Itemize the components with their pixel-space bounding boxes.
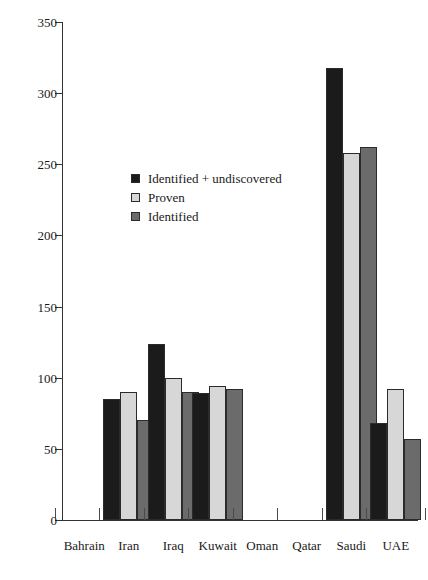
bar [103,399,120,520]
x-axis-tick-mark [425,508,426,520]
x-axis-tick-mark [188,508,189,520]
bar [209,386,226,520]
x-axis-tick-mark [277,508,278,520]
plot-area [62,22,418,520]
bar [343,153,360,520]
bar-group [237,22,288,520]
bar-group [192,22,243,520]
legend-item: Identified + undiscovered [131,170,282,187]
legend-swatch-icon [131,212,140,221]
bar-chart: 050100150200250300350 BahrainIranIraqKuw… [0,0,428,580]
bar [404,439,421,520]
bar [120,392,137,520]
x-axis-label: Iran [118,539,139,552]
bar [326,68,343,520]
bar [148,344,165,520]
x-axis-label: Kuwait [199,539,237,552]
y-axis-tick-label: 150 [38,300,58,313]
y-axis-tick-label: 100 [38,371,58,384]
x-axis-label: Bahrain [64,539,105,552]
y-axis-tick-label: 0 [51,514,58,527]
bar-group [281,22,332,520]
x-axis-tick-mark [366,508,367,520]
y-axis-tick-label: 300 [38,87,58,100]
bar [192,393,209,520]
x-axis-tick-mark [233,508,234,520]
bar-group [148,22,199,520]
chart-legend: Identified + undiscoveredProvenIdentifie… [131,170,282,227]
bar-group [103,22,154,520]
legend-item-label: Proven [148,191,185,204]
x-axis-tick-mark [99,508,100,520]
x-axis-label: Qatar [292,539,321,552]
bar [370,423,387,520]
bar-group [59,22,110,520]
x-axis-label: Saudi [336,539,366,552]
x-axis-label: Oman [246,539,278,552]
bar-group [370,22,421,520]
bar [387,389,404,520]
x-axis-tick-mark [144,508,145,520]
x-axis-tick-mark [55,508,56,520]
x-axis-label: UAE [382,539,409,552]
x-axis-line [62,520,418,521]
legend-item-label: Identified + undiscovered [148,172,282,185]
y-axis-tick-label: 200 [38,229,58,242]
legend-swatch-icon [131,193,140,202]
legend-item-label: Identified [148,210,199,223]
x-axis-label: Iraq [163,539,184,552]
bar-group [326,22,377,520]
y-axis-tick-label: 50 [44,442,57,455]
legend-item: Identified [131,208,282,225]
legend-item: Proven [131,189,282,206]
x-axis-tick-mark [322,508,323,520]
y-axis-tick-label: 350 [38,16,58,29]
bar [165,378,182,520]
legend-swatch-icon [131,174,140,183]
y-axis-tick-label: 250 [38,158,58,171]
